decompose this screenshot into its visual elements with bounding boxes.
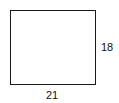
height-label: 18 xyxy=(101,42,113,53)
width-label: 21 xyxy=(46,90,58,101)
rectangle-shape xyxy=(10,10,96,85)
